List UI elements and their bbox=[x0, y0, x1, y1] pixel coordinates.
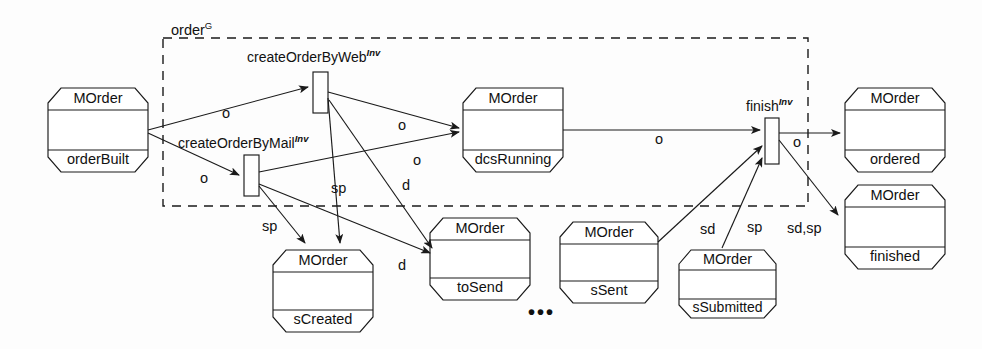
place-type-dcsRunning: MOrder bbox=[463, 90, 563, 106]
place-type-sSent: MOrder bbox=[560, 224, 658, 240]
arc-web-to-sCreated bbox=[328, 98, 340, 243]
arc-label-sd-sp: sd,sp bbox=[787, 220, 822, 236]
transition-name-createOrderByWeb: createOrderByWeb bbox=[247, 49, 367, 65]
transition-sup-createOrderByMail: Inv bbox=[295, 133, 309, 144]
diagram-vector-layer bbox=[0, 0, 982, 349]
place-state-finished: finished bbox=[845, 248, 945, 264]
region-name: order bbox=[171, 22, 205, 38]
place-state-ordered: ordered bbox=[845, 151, 945, 167]
arc-label-d-2: d bbox=[398, 257, 406, 273]
transition-shape-createOrderByWeb bbox=[313, 72, 328, 113]
transition-label-createOrderByMail: createOrderByMailInv bbox=[178, 133, 308, 151]
arc-web-to-dcsRunning bbox=[328, 92, 459, 128]
place-state-sSent: sSent bbox=[560, 282, 658, 298]
transition-sup-finish: Inv bbox=[779, 96, 793, 107]
place-type-toSend: MOrder bbox=[430, 220, 530, 236]
arc-label-o-5: o bbox=[655, 131, 663, 147]
arc-web-to-toSend bbox=[329, 100, 432, 248]
region-label-order: orderG bbox=[171, 20, 212, 38]
place-state-toSend: toSend bbox=[430, 279, 530, 295]
arc-label-sp-2: sp bbox=[262, 218, 277, 234]
arc-label-o-6: o bbox=[793, 134, 801, 150]
arc-label-o-4: o bbox=[413, 152, 421, 168]
transition-label-createOrderByWeb: createOrderByWebInv bbox=[247, 47, 380, 65]
diagram-canvas: MOrder orderBuilt MOrder dcsRunning MOrd… bbox=[0, 0, 982, 349]
place-state-sSubmitted: sSubmitted bbox=[677, 299, 778, 315]
arc-label-sp-3: sp bbox=[747, 219, 762, 235]
arc-label-o-3: o bbox=[398, 117, 406, 133]
transition-name-finish: finish bbox=[746, 98, 779, 114]
transition-sup-createOrderByWeb: Inv bbox=[367, 47, 381, 58]
place-type-finished: MOrder bbox=[845, 187, 945, 203]
place-type-sCreated: MOrder bbox=[273, 252, 373, 268]
arc-label-o-2: o bbox=[200, 170, 208, 186]
place-state-sCreated: sCreated bbox=[273, 311, 373, 327]
transition-shape-createOrderByMail bbox=[244, 155, 259, 196]
arc-label-o-1: o bbox=[222, 105, 230, 121]
arc-label-d-1: d bbox=[402, 177, 410, 193]
place-type-sSubmitted: MOrder bbox=[679, 251, 776, 267]
arc-label-sd: sd bbox=[700, 221, 715, 237]
transition-shape-finish bbox=[765, 118, 779, 164]
place-state-orderBuilt: orderBuilt bbox=[48, 151, 148, 167]
transition-name-createOrderByMail: createOrderByMail bbox=[178, 135, 295, 151]
place-type-orderBuilt: MOrder bbox=[48, 90, 148, 106]
transition-label-finish: finishInv bbox=[746, 96, 792, 114]
arc-mail-to-sCreated bbox=[259, 186, 305, 243]
arc-label-sp-1: sp bbox=[331, 180, 346, 196]
place-type-ordered: MOrder bbox=[845, 90, 945, 106]
ellipsis-indicator: ••• bbox=[528, 302, 555, 322]
place-state-dcsRunning: dcsRunning bbox=[461, 151, 565, 167]
region-superscript: G bbox=[205, 20, 212, 31]
